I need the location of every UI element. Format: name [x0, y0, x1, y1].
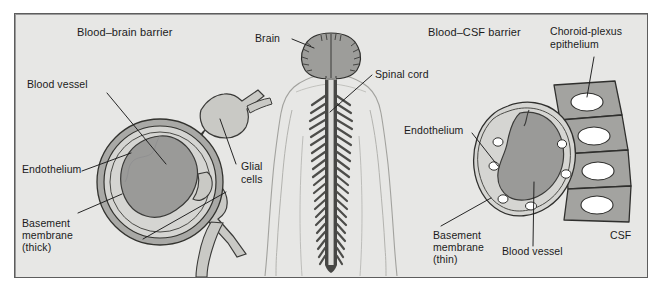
- label-spinal-cord: Spinal cord: [375, 69, 429, 81]
- label-glial-cells-line1: Glial: [241, 161, 263, 173]
- label-basement-membrane-right-line1: Basement: [433, 230, 481, 242]
- label-choroid-plexus-line2: epithelium: [550, 39, 599, 51]
- leader-basement-right: [441, 198, 491, 226]
- diagram-frame: Blood–brain barrier Blood–CSF barrier Bl…: [14, 13, 648, 278]
- label-blood-vessel-left: Blood vessel: [27, 79, 88, 91]
- label-glial-cells-line2: cells: [241, 174, 263, 186]
- label-blood-vessel-right: Blood vessel: [502, 246, 563, 258]
- label-basement-membrane-left-line3: (thick): [22, 242, 51, 254]
- panel-title-blood-brain-barrier: Blood–brain barrier: [77, 27, 172, 39]
- label-choroid-plexus-line1: Choroid-plexus: [550, 26, 622, 38]
- label-brain: Brain: [255, 33, 280, 45]
- label-csf: CSF: [610, 230, 631, 242]
- blood-vessel-left-figure: [97, 119, 223, 245]
- spinal-cord-figure: [310, 80, 352, 273]
- label-endothelium-right: Endothelium: [404, 125, 463, 137]
- label-basement-membrane-right-line3: (thin): [433, 254, 458, 266]
- label-endothelium-left: Endothelium: [22, 164, 81, 176]
- label-basement-membrane-right-line2: membrane: [433, 242, 484, 254]
- diagram-artwork: [15, 14, 647, 277]
- label-basement-membrane-left-line2: membrane: [22, 230, 73, 242]
- panel-title-blood-csf-barrier: Blood–CSF barrier: [428, 27, 521, 39]
- figure-stage: Blood–brain barrier Blood–CSF barrier Bl…: [0, 0, 660, 289]
- label-basement-membrane-left-line1: Basement: [22, 218, 70, 230]
